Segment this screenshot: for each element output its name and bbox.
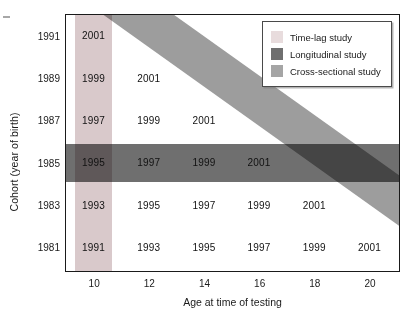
cell-1981-age16: 1997 <box>248 243 271 253</box>
x-axis-title: Age at time of testing <box>65 296 400 308</box>
cell-1985-age12: 1997 <box>137 158 160 168</box>
legend-label: Longitudinal study <box>290 49 367 60</box>
cross-sectional-swatch <box>271 65 283 77</box>
y-tick-1981: 1981 <box>22 243 60 253</box>
x-tick-10: 10 <box>89 278 100 289</box>
legend: Time-lag studyLongitudinal studyCross-se… <box>262 21 392 87</box>
cell-1987-age10: 1997 <box>82 116 105 126</box>
cell-1981-age10: 1991 <box>82 243 105 253</box>
legend-item-longitudinal-study: Longitudinal study <box>271 46 384 62</box>
time-lag-swatch <box>271 31 283 43</box>
cell-1989-age12: 2001 <box>137 74 160 84</box>
cell-1991-age10: 2001 <box>82 31 105 41</box>
y-tick-1985: 1985 <box>22 159 60 169</box>
cell-1983-age14: 1997 <box>192 201 215 211</box>
longitudinal-swatch <box>271 48 283 60</box>
cell-1987-age12: 1999 <box>137 116 160 126</box>
legend-item-time-lag-study: Time-lag study <box>271 29 384 45</box>
y-tick-1983: 1983 <box>22 201 60 211</box>
x-axis-tick-labels: 101214161820 <box>65 278 400 290</box>
cell-1985-age16: 2001 <box>248 158 271 168</box>
cell-1989-age10: 1999 <box>82 74 105 84</box>
cell-1983-age12: 1995 <box>137 201 160 211</box>
y-tick-1989: 1989 <box>22 74 60 84</box>
y-tick-1991: 1991 <box>22 32 60 42</box>
cell-1985-age14: 1999 <box>192 158 215 168</box>
x-tick-18: 18 <box>309 278 320 289</box>
cell-1981-age18: 1999 <box>303 243 326 253</box>
cell-1987-age14: 2001 <box>192 116 215 126</box>
cell-1983-age18: 2001 <box>303 201 326 211</box>
cell-1983-age16: 1999 <box>248 201 271 211</box>
cell-1981-age20: 2001 <box>358 243 381 253</box>
cell-1983-age10: 1993 <box>82 201 105 211</box>
cell-1981-age14: 1995 <box>192 243 215 253</box>
x-tick-14: 14 <box>199 278 210 289</box>
cell-1985-age10: 1995 <box>82 158 105 168</box>
x-tick-12: 12 <box>144 278 155 289</box>
y-tick-1987: 1987 <box>22 116 60 126</box>
legend-label: Cross-sectional study <box>290 66 381 77</box>
x-tick-20: 20 <box>364 278 375 289</box>
legend-label: Time-lag study <box>290 32 352 43</box>
y-axis-tick-labels: 199119891987198519831981 <box>22 0 60 324</box>
legend-item-cross-sectional-study: Cross-sectional study <box>271 63 384 79</box>
x-tick-16: 16 <box>254 278 265 289</box>
cell-1981-age12: 1993 <box>137 243 160 253</box>
